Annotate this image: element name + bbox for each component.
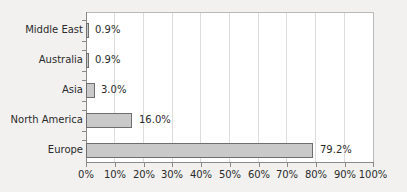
x-axis-tick xyxy=(201,163,202,167)
value-label-australia: 0.9% xyxy=(95,54,120,66)
x-axis-label-40: 40% xyxy=(190,169,212,181)
y-axis-tick xyxy=(82,80,86,81)
x-axis-label-100: 100% xyxy=(359,169,388,181)
x-axis-label-60: 60% xyxy=(248,169,270,181)
category-label-north-america: North America xyxy=(11,114,83,126)
x-axis-label-80: 80% xyxy=(305,169,327,181)
bar-asia xyxy=(86,83,95,98)
bar-europe xyxy=(86,143,313,158)
y-axis-tick xyxy=(82,20,86,21)
x-axis-tick xyxy=(86,163,87,167)
category-label-asia: Asia xyxy=(62,84,83,96)
x-axis-tick xyxy=(373,163,374,167)
x-axis-tick xyxy=(316,163,317,167)
x-axis-label-30: 30% xyxy=(161,169,183,181)
x-axis-tick xyxy=(144,163,145,167)
x-axis-tick xyxy=(115,163,116,167)
x-axis-tick xyxy=(345,163,346,167)
x-axis-label-50: 50% xyxy=(219,169,241,181)
gridline-70 xyxy=(286,13,287,162)
bar-australia xyxy=(86,53,89,68)
value-label-middle-east: 0.9% xyxy=(95,24,120,36)
category-label-australia: Australia xyxy=(39,54,83,66)
y-axis-tick xyxy=(82,110,86,111)
y-axis-tick xyxy=(82,50,86,51)
gridline-40 xyxy=(200,13,201,162)
plot-area xyxy=(86,12,374,162)
value-label-europe: 79.2% xyxy=(320,144,352,156)
gridline-90 xyxy=(344,13,345,162)
bar-chart: Middle East 0.9% Australia 0.9% Asia 3.0… xyxy=(0,0,407,192)
x-axis-label-10: 10% xyxy=(104,169,126,181)
value-label-asia: 3.0% xyxy=(101,84,126,96)
value-label-north-america: 16.0% xyxy=(139,114,171,126)
x-axis-tick xyxy=(230,163,231,167)
x-axis-label-20: 20% xyxy=(133,169,155,181)
y-axis-tick xyxy=(82,41,86,42)
x-axis-tick xyxy=(287,163,288,167)
y-axis-tick xyxy=(82,101,86,102)
category-label-europe: Europe xyxy=(48,144,83,156)
x-axis-label-70: 70% xyxy=(276,169,298,181)
category-label-middle-east: Middle East xyxy=(25,24,83,36)
gridline-20 xyxy=(143,13,144,162)
y-axis-tick xyxy=(82,71,86,72)
x-axis-tick xyxy=(259,163,260,167)
gridline-30 xyxy=(172,13,173,162)
gridline-60 xyxy=(258,13,259,162)
y-axis-tick xyxy=(82,131,86,132)
x-axis-tick xyxy=(172,163,173,167)
x-axis-label-0: 0% xyxy=(78,169,94,181)
gridline-50 xyxy=(229,13,230,162)
bar-north-america xyxy=(86,113,132,128)
x-axis-label-90: 90% xyxy=(334,169,356,181)
gridline-80 xyxy=(315,13,316,162)
y-axis-tick xyxy=(82,140,86,141)
bar-middle-east xyxy=(86,23,89,38)
